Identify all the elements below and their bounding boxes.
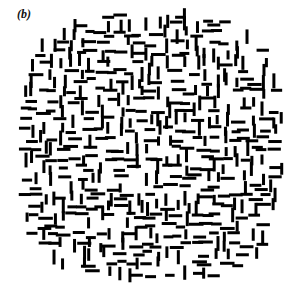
texture-segment xyxy=(235,153,238,166)
texture-segment xyxy=(133,41,146,44)
texture-segment xyxy=(129,245,143,248)
segment-group xyxy=(19,8,283,282)
texture-segment xyxy=(28,205,40,208)
texture-segment xyxy=(121,82,124,94)
texture-segment xyxy=(19,127,30,130)
texture-segment xyxy=(82,155,85,164)
texture-segment xyxy=(218,195,230,198)
texture-segment xyxy=(133,52,146,55)
texture-segment xyxy=(194,85,197,95)
texture-segment xyxy=(223,157,233,160)
texture-segment xyxy=(69,54,72,67)
texture-segment xyxy=(256,148,267,151)
texture-segment xyxy=(272,198,275,210)
texture-segment xyxy=(252,97,255,107)
texture-segment xyxy=(137,119,148,122)
texture-segment xyxy=(243,170,246,180)
texture-segment xyxy=(198,195,213,198)
texture-segment xyxy=(45,159,57,162)
texture-segment xyxy=(131,75,134,90)
texture-segment xyxy=(240,106,251,109)
texture-segment xyxy=(35,172,38,184)
texture-segment xyxy=(74,80,88,83)
texture-segment xyxy=(39,130,42,143)
texture-segment xyxy=(24,85,27,96)
texture-segment xyxy=(31,125,34,138)
texture-segment xyxy=(128,19,131,31)
texture-segment xyxy=(241,159,251,162)
texture-segment xyxy=(184,113,187,123)
texture-segment xyxy=(212,48,215,62)
texture-segment xyxy=(268,148,281,151)
texture-segment xyxy=(143,90,156,93)
texture-segment xyxy=(165,246,168,258)
texture-segment xyxy=(236,217,248,220)
texture-segment xyxy=(150,81,162,84)
texture-segment xyxy=(118,267,121,280)
texture-segment xyxy=(136,258,139,270)
texture-segment xyxy=(48,242,59,245)
texture-segment xyxy=(257,243,269,246)
texture-segment xyxy=(119,183,122,192)
texture-segment xyxy=(237,129,249,132)
texture-segment xyxy=(87,77,96,80)
texture-segment xyxy=(259,117,274,120)
texture-segment xyxy=(268,175,281,178)
texture-segment xyxy=(92,173,95,183)
panel-label: (b) xyxy=(17,8,31,20)
texture-segment xyxy=(22,179,32,182)
texture-segment xyxy=(26,232,37,235)
texture-segment xyxy=(221,177,235,180)
texture-segment xyxy=(211,223,222,226)
texture-segment xyxy=(170,21,182,24)
texture-segment xyxy=(148,63,151,76)
texture-segment xyxy=(61,105,64,117)
texture-segment xyxy=(85,154,98,157)
texture-segment xyxy=(88,238,91,247)
texture-segment xyxy=(142,243,154,246)
texture-segment xyxy=(98,169,101,183)
texture-segment xyxy=(106,57,109,67)
texture-segment xyxy=(255,247,258,259)
texture-segment xyxy=(30,187,42,190)
texture-segment xyxy=(196,149,211,152)
texture-segment xyxy=(113,68,126,71)
texture-segment xyxy=(114,31,126,34)
texture-segment xyxy=(184,229,187,239)
texture-segment xyxy=(93,31,106,34)
texture-segment xyxy=(108,98,117,101)
texture-segment xyxy=(114,174,128,177)
texture-segment xyxy=(107,189,119,192)
texture-segment xyxy=(50,54,53,68)
texture-segment xyxy=(53,250,56,265)
texture-segment xyxy=(271,89,282,92)
texture-segment xyxy=(223,232,226,241)
texture-segment xyxy=(159,120,162,134)
texture-segment xyxy=(162,222,177,225)
texture-segment xyxy=(256,135,269,138)
texture-segment xyxy=(75,24,88,27)
texture-segment xyxy=(203,136,206,146)
texture-segment xyxy=(220,227,235,230)
texture-segment xyxy=(107,71,117,74)
texture-segment xyxy=(53,117,66,120)
texture-segment xyxy=(155,233,158,243)
texture-segment xyxy=(109,79,112,90)
texture-segment xyxy=(163,183,178,186)
texture-segment xyxy=(63,145,78,148)
texture-segment xyxy=(209,212,221,215)
texture-segment xyxy=(41,38,44,51)
texture-segment xyxy=(170,175,182,178)
texture-segment xyxy=(153,185,163,188)
texture-segment xyxy=(170,246,184,249)
texture-segment xyxy=(235,78,238,87)
texture-segment xyxy=(172,88,187,91)
texture-segment xyxy=(47,100,58,103)
texture-segment xyxy=(67,205,77,208)
texture-segment xyxy=(246,29,249,43)
texture-segment xyxy=(66,91,76,94)
texture-segment xyxy=(29,213,39,216)
texture-segment xyxy=(114,197,127,200)
texture-segment xyxy=(125,130,135,133)
texture-segment xyxy=(198,121,201,136)
